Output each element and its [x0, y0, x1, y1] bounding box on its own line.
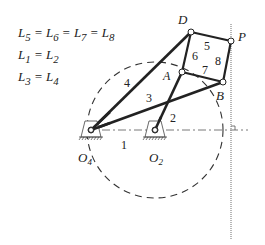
label-P: P [237, 29, 246, 44]
joint-D [188, 29, 194, 35]
right-angle-mark [231, 126, 235, 130]
joint-P [228, 38, 234, 44]
link-8 [223, 41, 231, 82]
link-label-1: 1 [121, 138, 127, 152]
joint-A [179, 69, 185, 75]
label-A: A [162, 69, 171, 83]
link-label-3: 3 [146, 91, 152, 105]
link-label-6: 6 [192, 49, 198, 63]
equation-l3-l4: L3 = L4 [18, 69, 59, 87]
label-O4: O4 [78, 150, 92, 167]
link-label-4: 4 [124, 76, 130, 90]
equation-l1-l2: L1 = L2 [18, 47, 59, 65]
label-O2: O2 [149, 150, 163, 167]
link-label-2: 2 [170, 111, 176, 125]
link-label-8: 8 [215, 54, 221, 68]
equation-rhombus: L5 = L6 = L7 = L8 [18, 25, 114, 43]
link-5 [191, 32, 231, 41]
label-B: B [216, 88, 224, 103]
link-label-7: 7 [202, 63, 208, 77]
label-D: D [177, 12, 188, 27]
joint-B [220, 79, 226, 85]
link-label-5: 5 [204, 39, 210, 53]
